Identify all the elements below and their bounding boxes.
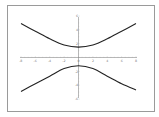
y-tick-label: -4 [75, 83, 78, 87]
y-tick-label: 6 [76, 14, 78, 18]
hyperbola-plot: -8-6-4-202468-6-4-2246 [0, 0, 159, 117]
y-tick-label: 4 [76, 28, 78, 32]
y-tick-label: -6 [75, 97, 78, 101]
x-tick-label: -2 [62, 59, 65, 63]
x-tick-label: -4 [48, 59, 51, 63]
x-tick-label: -8 [19, 59, 22, 63]
y-tick-label: 2 [76, 42, 78, 46]
x-tick-label: -6 [34, 59, 37, 63]
x-tick-label: 4 [106, 59, 108, 63]
x-tick-label: 8 [135, 59, 137, 63]
x-tick-label: 0 [78, 59, 80, 63]
y-tick-label: -2 [75, 70, 78, 74]
x-tick-label: 2 [92, 59, 94, 63]
x-tick-label: 6 [121, 59, 123, 63]
